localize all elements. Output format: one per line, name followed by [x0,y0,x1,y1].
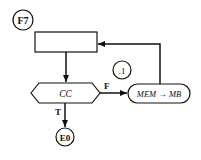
false-label: F [104,81,110,91]
action-node: MEM → MB [128,84,190,103]
exit-node-e0: E0 [56,128,74,146]
entry-node-f7: F7 [13,10,33,30]
exit-label: E0 [60,133,71,143]
entry-label: F7 [17,15,28,26]
decision-label: CC [59,89,72,99]
flowchart: F7 CC F .1 MEM → MB T E0 [0,0,201,160]
connector-node: .1 [113,61,131,79]
true-label: T [55,107,61,117]
connector-label: .1 [119,66,126,76]
action-label: MEM → MB [136,89,181,99]
decision-node-cc: CC [31,83,100,103]
process-box [35,32,97,52]
